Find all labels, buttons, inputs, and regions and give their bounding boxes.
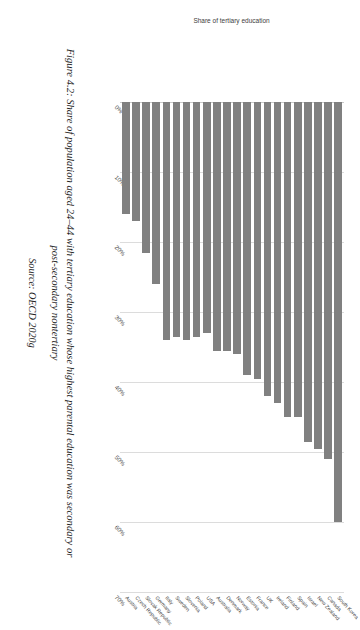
bar[interactable] [152, 102, 160, 284]
bar[interactable] [173, 102, 181, 337]
bar-row[interactable] [294, 102, 302, 592]
bar-row[interactable] [173, 102, 181, 592]
category-label: UK [265, 595, 274, 604]
figure-source: Source: OECD 2020g [27, 6, 38, 600]
category-label: Finland [285, 595, 300, 611]
bar[interactable] [294, 102, 302, 417]
category-label: Austria [124, 595, 139, 610]
category-label: Ireland [275, 595, 289, 610]
bar[interactable] [243, 102, 251, 375]
category-label: Australia [215, 595, 232, 613]
bar[interactable] [122, 102, 130, 214]
bar[interactable] [132, 102, 140, 221]
bar-row[interactable] [274, 102, 282, 592]
bar[interactable] [193, 102, 201, 337]
bar[interactable] [233, 102, 241, 354]
bar-row[interactable] [122, 102, 130, 592]
gridline [120, 592, 344, 593]
value-axis-title-label: Share of tertiary education [194, 17, 270, 24]
bar-series [120, 102, 344, 592]
bar[interactable] [203, 102, 211, 333]
bar[interactable] [274, 102, 282, 403]
bar-row[interactable] [324, 102, 332, 592]
category-label: Slovenia [184, 595, 201, 613]
category-label: Germany [154, 595, 172, 614]
bar-row[interactable] [183, 102, 191, 592]
bar-row[interactable] [163, 102, 171, 592]
bar-row[interactable] [284, 102, 292, 592]
bar[interactable] [304, 102, 312, 442]
bar-row[interactable] [264, 102, 272, 592]
category-label: USA [205, 595, 216, 606]
bar[interactable] [142, 102, 150, 253]
bar-row[interactable] [233, 102, 241, 592]
figure-caption: Figure 4.2: Share of population aged 24–… [47, 6, 78, 600]
bar[interactable] [183, 102, 191, 340]
bar[interactable] [284, 102, 292, 417]
bar-row[interactable] [254, 102, 262, 592]
bar-row[interactable] [304, 102, 312, 592]
bar[interactable] [163, 102, 171, 340]
category-label: Israel [306, 595, 318, 608]
bar-row[interactable] [334, 102, 342, 592]
category-label: Slovak Republic [144, 595, 173, 626]
bar-row[interactable] [203, 102, 211, 592]
bar-row[interactable] [193, 102, 201, 592]
bar[interactable] [254, 102, 262, 379]
value-axis-title: Share of tertiary education [120, 10, 344, 30]
bar-row[interactable] [142, 102, 150, 592]
category-axis-labels: South KoreaCanadaNew ZealandIsraelSpainF… [120, 594, 344, 630]
bar-row[interactable] [223, 102, 231, 592]
bar[interactable] [264, 102, 272, 396]
caption-block: Figure 4.2: Share of population aged 24–… [27, 6, 78, 600]
category-label: New Zealand [316, 595, 340, 621]
category-label: South Korea [336, 595, 359, 620]
bar[interactable] [213, 102, 221, 351]
category-label: Denmark [225, 595, 243, 614]
bar-chart: Share of tertiary education 0%10%20%30%4… [80, 6, 348, 600]
category-label: Norway [235, 595, 251, 612]
category-label: Canada [326, 595, 342, 612]
bar-row[interactable] [152, 102, 160, 592]
category-label: Sweden [174, 595, 190, 612]
category-label: Spain [296, 595, 309, 608]
category-label: Czech Republic [134, 595, 162, 625]
bar[interactable] [324, 102, 332, 459]
category-label: Poland [194, 595, 209, 610]
value-axis-tick: 70% [114, 594, 127, 607]
bar-row[interactable] [132, 102, 140, 592]
category-label: Estonia [245, 595, 260, 611]
bar[interactable] [334, 102, 342, 522]
bar[interactable] [223, 102, 231, 351]
bar-row[interactable] [243, 102, 251, 592]
plot-region [120, 102, 344, 592]
bar-row[interactable] [314, 102, 322, 592]
bar[interactable] [314, 102, 322, 449]
category-label: France [255, 595, 270, 610]
category-label: Italy [164, 595, 174, 606]
bar-row[interactable] [213, 102, 221, 592]
